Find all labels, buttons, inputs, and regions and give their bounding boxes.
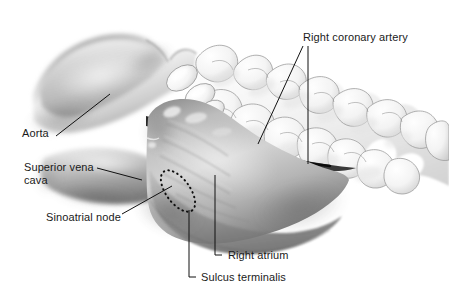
label-superior-vena-cava: Superior venacava (24, 161, 94, 187)
anatomy-illustration (0, 0, 449, 299)
label-superior-vena-cava-line2: cava (24, 174, 48, 186)
label-right-atrium: Right atrium (228, 249, 289, 262)
label-sulcus-terminalis: Sulcus terminalis (201, 271, 286, 284)
label-superior-vena-cava-line1: Superior vena (24, 161, 94, 173)
anatomy-figure: Right coronary artery Aorta Superior ven… (0, 0, 449, 299)
label-right-coronary-artery: Right coronary artery (303, 31, 408, 44)
label-aorta: Aorta (22, 127, 49, 140)
label-sinoatrial-node: Sinoatrial node (46, 211, 121, 224)
